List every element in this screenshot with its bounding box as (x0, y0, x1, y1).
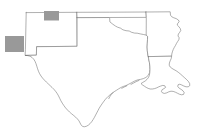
map-figure (0, 0, 205, 140)
highlight-region-north[interactable] (44, 11, 59, 21)
highlight-region-west[interactable] (5, 36, 24, 52)
state-outline-oklahoma (77, 12, 147, 18)
us-south-central-outline-map (0, 0, 205, 140)
